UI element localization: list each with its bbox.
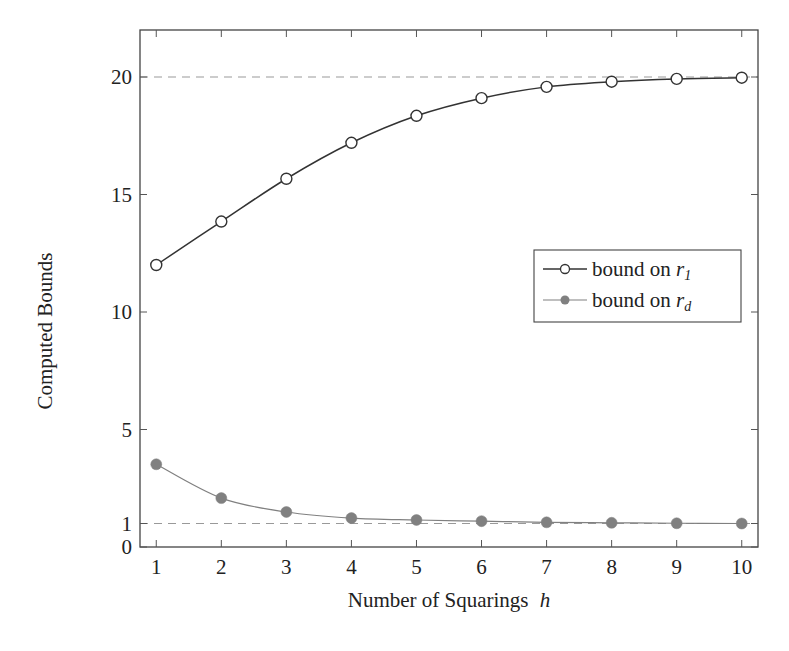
filled-circle-marker xyxy=(476,516,487,527)
open-circle-marker xyxy=(476,93,487,104)
filled-circle-marker xyxy=(541,517,552,528)
open-circle-marker xyxy=(346,137,357,148)
x-tick-label: 9 xyxy=(671,555,682,579)
legend-label: bound on r1 xyxy=(592,257,691,283)
filled-circle-marker xyxy=(346,513,357,524)
filled-circle-marker xyxy=(411,514,422,525)
x-tick-label: 4 xyxy=(346,555,357,579)
x-axis-label: Number of Squarings h xyxy=(348,588,551,612)
x-tick-label: 8 xyxy=(606,555,617,579)
series-line xyxy=(156,78,741,265)
open-circle-marker xyxy=(736,72,747,83)
y-tick-label: 20 xyxy=(111,65,132,89)
x-axis-label-text: Number of Squarings xyxy=(348,588,529,612)
x-tick-label: 7 xyxy=(541,555,552,579)
series-r1 xyxy=(151,72,747,270)
x-tick-labels: 12345678910 xyxy=(151,555,752,579)
open-circle-marker xyxy=(216,216,227,227)
series-line xyxy=(156,464,741,523)
open-circle-marker xyxy=(281,173,292,184)
y-tick-labels: 015101520 xyxy=(111,65,132,559)
filled-circle-marker xyxy=(151,459,162,470)
filled-circle-marker xyxy=(606,517,617,528)
open-circle-marker xyxy=(541,81,552,92)
x-tick-label: 2 xyxy=(216,555,227,579)
legend: bound on r1bound on rd xyxy=(534,250,741,322)
open-circle-marker xyxy=(606,76,617,87)
filled-circle-marker xyxy=(281,506,292,517)
y-tick-label: 1 xyxy=(122,512,133,536)
series-rd xyxy=(151,459,747,529)
y-tick-label: 5 xyxy=(122,418,133,442)
y-axis-label: Computed Bounds xyxy=(33,253,57,410)
open-circle-marker xyxy=(411,110,422,121)
filled-circle-marker xyxy=(216,493,227,504)
open-circle-marker xyxy=(671,73,682,84)
legend-filled-circle-icon xyxy=(561,296,570,305)
open-circle-marker xyxy=(151,260,162,271)
x-tick-label: 5 xyxy=(411,555,422,579)
x-axis-label-var: h xyxy=(540,588,551,612)
x-tick-label: 10 xyxy=(731,555,752,579)
filled-circle-marker xyxy=(671,518,682,529)
y-tick-label: 15 xyxy=(111,183,132,207)
x-tick-label: 1 xyxy=(151,555,162,579)
y-tick-label: 10 xyxy=(111,300,132,324)
y-tick-label: 0 xyxy=(122,535,133,559)
filled-circle-marker xyxy=(736,518,747,529)
x-tick-label: 3 xyxy=(281,555,292,579)
legend-open-circle-icon xyxy=(561,265,570,274)
x-tick-label: 6 xyxy=(476,555,487,579)
line-chart: 12345678910 015101520 Number of Squaring… xyxy=(0,0,789,651)
legend-label: bound on rd xyxy=(592,288,692,314)
